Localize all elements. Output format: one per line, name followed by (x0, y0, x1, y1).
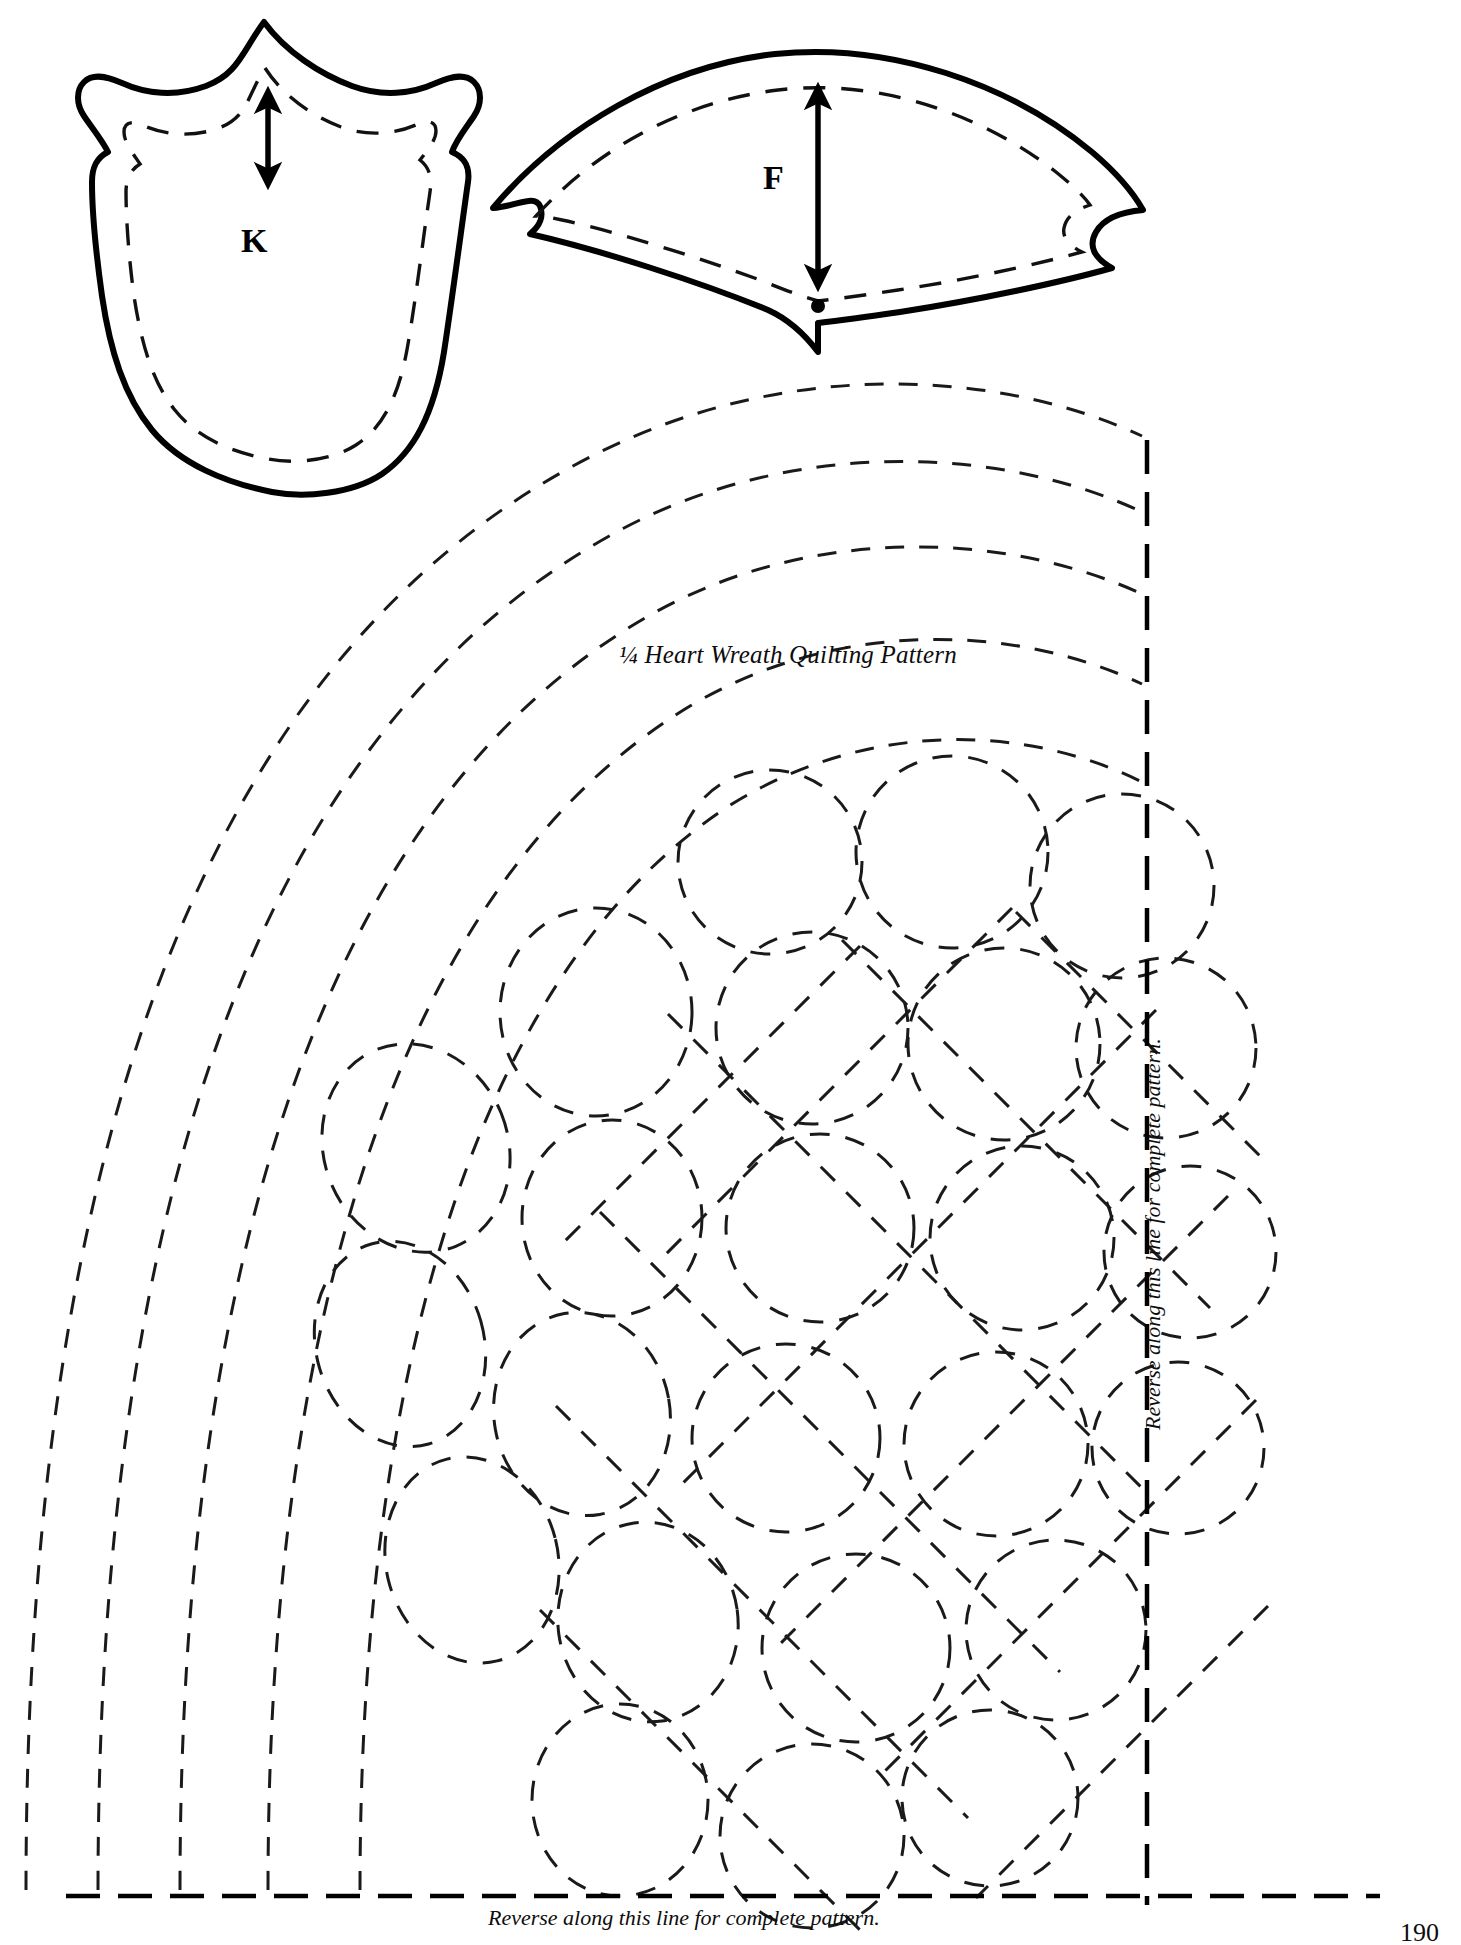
wreath-loop (291, 1221, 510, 1467)
wreath-loop (500, 908, 692, 1116)
wreath-loop (1092, 1362, 1264, 1534)
template-f-stitch-line (536, 88, 1090, 301)
wreath-loop (726, 1134, 914, 1322)
bottom-reverse-note: Reverse along this line for complete pat… (488, 1905, 880, 1931)
wreath-loop (856, 756, 1048, 948)
wreath-loop-circles (291, 756, 1276, 1928)
wreath-arc-3 (180, 547, 1142, 1890)
template-k-stitch-line (124, 68, 436, 461)
crosshatch-line (540, 1610, 860, 1930)
template-f-group (493, 52, 1143, 352)
template-f-registration-dot (811, 299, 825, 313)
wreath-loop (1076, 958, 1256, 1138)
template-k-group (78, 22, 480, 495)
wreath-loop (908, 948, 1100, 1140)
wreath-loop (692, 1344, 880, 1532)
wreath-arc-4 (268, 639, 1142, 1890)
wreath-arc-1 (26, 384, 1142, 1890)
wreath-loop (545, 1510, 751, 1733)
wreath-loop (478, 1298, 687, 1529)
wreath-loop (678, 770, 862, 954)
wreath-loop (291, 1015, 541, 1280)
wreath-loop (363, 1438, 580, 1681)
wreath-loop (902, 1710, 1078, 1886)
wreath-loop (904, 1352, 1088, 1536)
wreath-loop (532, 1704, 708, 1896)
wreath-concentric-arcs (26, 384, 1142, 1890)
wreath-loop (1030, 794, 1214, 978)
page-number: 190 (1400, 1918, 1439, 1945)
crosshatch-line (560, 946, 860, 1246)
wreath-loop (720, 1744, 904, 1928)
right-reverse-note-wrapper: Reverse along this line for complete pat… (1140, 1012, 1166, 1432)
crosshatch-line (880, 1400, 1256, 1776)
wreath-loop (1104, 1166, 1276, 1338)
template-k-label: K (241, 222, 268, 260)
template-k-outline (78, 22, 480, 495)
wreath-loop (966, 1540, 1146, 1720)
wreath-arc-2 (98, 461, 1142, 1890)
right-reverse-note: Reverse along this line for complete pat… (1140, 1038, 1166, 1432)
wreath-loop (522, 1120, 702, 1316)
template-f-label: F (763, 159, 784, 197)
crosshatch-line (976, 1606, 1268, 1898)
crosshatch-line (668, 1014, 1148, 1494)
crosshatch-line (660, 908, 1012, 1260)
quilting-pattern-title: ¼ Heart Wreath Quilting Pattern (619, 641, 957, 669)
wreath-loop (716, 932, 908, 1124)
wreath-loop (762, 1554, 950, 1742)
